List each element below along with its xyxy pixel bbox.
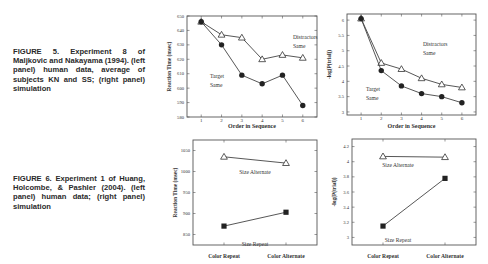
y-axis-label: Reaction Time (msec) (166, 41, 173, 91)
triangle-marker (279, 52, 286, 58)
series-annotation: Distractors (293, 34, 318, 40)
plot-frame (352, 139, 476, 245)
circle-marker (358, 16, 363, 21)
y-tick-label: 5.5 (338, 33, 344, 38)
y-tick-label: 850 (183, 232, 191, 237)
y-tick-label: 4.2 (343, 144, 349, 149)
figure-5-caption: FIGURE 5. Experiment 8 of Maljkovic and … (13, 47, 145, 93)
y-tick-label: 4.5 (338, 64, 344, 69)
square-marker (380, 223, 385, 228)
figure-5-left-chart: 580590600610620630640650123456Order in S… (160, 8, 326, 132)
series-annotation: Same (366, 95, 379, 101)
y-tick-label: 950 (183, 190, 191, 195)
x-tick-label: 6 (461, 116, 464, 121)
x-tick-label: 1 (200, 118, 203, 123)
circle-marker (419, 91, 424, 96)
y-tick-label: 1050 (181, 148, 191, 153)
y-tick-label: 3.2 (343, 220, 349, 225)
series-line (201, 22, 303, 106)
circle-marker (239, 72, 244, 77)
y-tick-label: 1000 (181, 169, 191, 174)
circle-marker (300, 103, 305, 108)
x-tick-label: 5 (281, 118, 284, 123)
plot-frame (193, 140, 317, 245)
square-marker (221, 224, 226, 229)
circle-marker (259, 81, 264, 86)
figure-6-right-chart: 33.23.43.63.844.2Color RepeatColor Alter… (326, 134, 488, 264)
series-annotation: Distractors (423, 41, 448, 47)
circle-marker (199, 19, 204, 24)
series-annotation: Same (293, 43, 306, 49)
x-category-label: Color Repeat (367, 253, 399, 259)
y-axis-label: Reaction Time (msec) (172, 167, 179, 217)
y-tick-label: 580 (177, 115, 185, 120)
series-line (383, 156, 445, 157)
series-annotation: Size Repeat (385, 237, 412, 243)
y-tick-label: 3.4 (343, 205, 349, 210)
triangle-marker (418, 75, 425, 81)
x-tick-label: 1 (360, 116, 363, 121)
plot-frame (187, 16, 317, 117)
series-annotation: Same (423, 50, 436, 56)
x-tick-label: 4 (420, 116, 423, 121)
series-annotation: Target (366, 86, 381, 92)
triangle-marker (221, 153, 228, 159)
circle-marker (439, 94, 444, 99)
y-tick-label: 900 (183, 211, 191, 216)
circle-marker (399, 83, 404, 88)
series-annotation: Size Alternate (239, 169, 271, 175)
series-annotation: Target (210, 73, 225, 79)
y-tick-label: 600 (177, 86, 185, 91)
y-tick-label: 3 (342, 110, 345, 115)
triangle-marker (218, 31, 225, 37)
x-tick-label: 6 (302, 118, 305, 123)
circle-marker (219, 42, 224, 47)
square-marker (442, 176, 447, 181)
y-tick-label: 3.8 (343, 174, 349, 179)
y-tick-label: 5 (342, 48, 345, 53)
circle-marker (379, 68, 384, 73)
triangle-marker (380, 153, 387, 159)
y-tick-label: 650 (177, 14, 185, 19)
x-tick-label: 5 (440, 116, 443, 121)
square-marker (283, 210, 288, 215)
y-tick-label: 3.5 (338, 94, 344, 99)
series-annotation: Size Alternate (382, 162, 414, 168)
y-axis-label: -log(P(trial)) (326, 50, 333, 79)
figure-6-left-chart: 85090095010001050Color RepeatColor Alter… (160, 134, 326, 264)
y-tick-label: 3 (347, 235, 350, 240)
figure-6-caption: FIGURE 6. Experiment 1 of Huang, Holcomb… (13, 174, 145, 211)
y-tick-label: 4 (342, 79, 345, 84)
x-category-label: Color Alternate (426, 253, 464, 259)
series-line (224, 212, 286, 226)
x-tick-label: 3 (400, 116, 403, 121)
circle-marker (280, 72, 285, 77)
y-axis-label: -log(P(trial)) (331, 177, 338, 206)
y-tick-label: 6 (342, 18, 345, 23)
y-tick-label: 610 (177, 71, 185, 76)
y-tick-label: 590 (177, 100, 185, 105)
figure-5-right-chart: 33.544.555.56123456Order in Sequence-log… (326, 8, 488, 132)
series-line (201, 22, 303, 60)
series-annotation: Same (210, 82, 223, 88)
series-line (383, 178, 445, 226)
y-tick-label: 640 (177, 28, 185, 33)
series-annotation: Size Repeat (242, 241, 269, 247)
x-axis-label: Order in Sequence (388, 123, 436, 129)
x-category-label: Color Repeat (208, 253, 240, 259)
x-category-label: Color Alternate (267, 253, 305, 259)
y-tick-label: 4 (347, 159, 350, 164)
y-tick-label: 3.6 (343, 190, 349, 195)
x-tick-label: 2 (220, 118, 223, 123)
series-line (224, 157, 286, 163)
x-axis-label: Order in Sequence (228, 123, 276, 129)
triangle-marker (442, 154, 449, 160)
y-tick-label: 630 (177, 42, 185, 47)
y-tick-label: 620 (177, 57, 185, 62)
series-line (361, 19, 462, 88)
x-tick-label: 2 (380, 116, 383, 121)
circle-marker (459, 100, 464, 105)
